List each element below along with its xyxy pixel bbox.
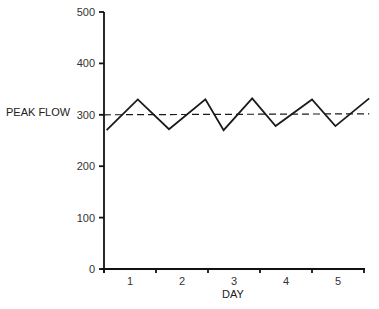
x-tick-label: 4 [283,275,289,287]
peak-flow-chart: 0100200300400500 12345 PEAK FLOW DAY [0,0,379,309]
y-tick-label: 300 [77,109,95,121]
x-tick-label: 2 [179,275,185,287]
x-tick-label: 5 [335,275,341,287]
x-tick-label: 1 [127,275,133,287]
x-tick-label: 3 [231,275,237,287]
y-axis: 0100200300400500 [77,6,104,275]
x-axis: 12345 [101,269,365,287]
y-axis-title: PEAK FLOW [6,106,71,118]
y-tick-label: 200 [77,160,95,172]
reference-dashed-line [104,114,369,115]
y-tick-label: 500 [77,6,95,18]
y-tick-label: 400 [77,57,95,69]
y-tick-label: 100 [77,212,95,224]
x-axis-title: DAY [222,288,244,300]
y-tick-label: 0 [89,263,95,275]
series-group [104,98,369,130]
